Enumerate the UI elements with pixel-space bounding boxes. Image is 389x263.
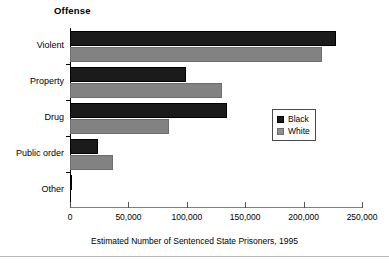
x-axis-tick-label: 150,000 <box>230 212 261 222</box>
x-axis-tick-label: 200,000 <box>288 212 319 222</box>
y-axis-tick <box>66 136 70 137</box>
legend-label-white: White <box>288 126 310 136</box>
legend-label-black: Black <box>288 114 309 124</box>
bar-group-public-order <box>70 136 362 172</box>
bar-white-property <box>70 83 222 98</box>
x-axis-tick <box>128 202 129 208</box>
bar-black-violent <box>70 31 336 46</box>
y-axis-label-public-order: Public order <box>0 148 64 158</box>
bar-chart: Offense ViolentPropertyDrugPublic orderO… <box>0 0 389 263</box>
y-axis-label-violent: Violent <box>0 40 64 50</box>
x-axis-tick-label: 100,000 <box>171 212 202 222</box>
bar-group-property <box>70 64 362 100</box>
bar-group-drug <box>70 100 362 136</box>
y-axis-tick <box>66 172 70 173</box>
x-axis-tick-label: 250,000 <box>347 212 378 222</box>
plot-area <box>70 28 362 208</box>
legend-item-black: Black <box>277 113 310 125</box>
x-axis-tick-label: 50,000 <box>115 212 141 222</box>
x-axis-tick <box>362 202 363 208</box>
chart-legend: Black White <box>272 109 316 141</box>
bar-white-public-order <box>70 155 113 170</box>
bar-black-property <box>70 67 186 82</box>
y-axis-tick <box>66 100 70 101</box>
legend-swatch-black-icon <box>277 116 284 123</box>
x-axis-tick <box>187 202 188 208</box>
y-axis-tick <box>66 64 70 65</box>
x-axis-title: Estimated Number of Sentenced State Pris… <box>0 236 389 246</box>
bar-group-other <box>70 172 362 208</box>
bar-group-violent <box>70 28 362 64</box>
bottom-divider <box>0 256 389 257</box>
legend-swatch-white-icon <box>277 128 284 135</box>
x-axis-tick <box>245 202 246 208</box>
bar-black-public-order <box>70 139 98 154</box>
bar-black-drug <box>70 103 227 118</box>
chart-axis-title-offense: Offense <box>54 5 91 16</box>
y-axis-label-other: Other <box>0 184 64 194</box>
y-axis-label-property: Property <box>0 76 64 86</box>
bar-white-drug <box>70 119 169 134</box>
x-axis-tick-label: 0 <box>68 212 73 222</box>
x-axis-tick <box>70 202 71 208</box>
legend-item-white: White <box>277 125 310 137</box>
y-axis-labels: ViolentPropertyDrugPublic orderOther <box>0 28 64 208</box>
y-axis-label-drug: Drug <box>0 112 64 122</box>
bar-white-violent <box>70 47 322 62</box>
x-axis-tick <box>304 202 305 208</box>
bar-black-other <box>70 175 72 190</box>
